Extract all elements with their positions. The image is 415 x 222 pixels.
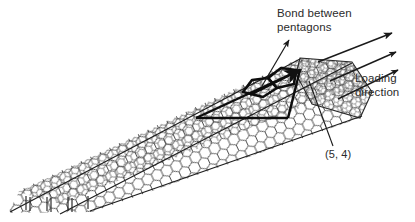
nanotube-illustration <box>0 0 415 222</box>
loading-direction-label: Loading direction <box>355 72 399 99</box>
chirality-index-label: (5, 4) <box>325 148 351 162</box>
bond-between-pentagons-label: Bond between pentagons <box>277 7 352 34</box>
nanotube-figure: Bond between pentagons Loading direction… <box>0 0 415 222</box>
